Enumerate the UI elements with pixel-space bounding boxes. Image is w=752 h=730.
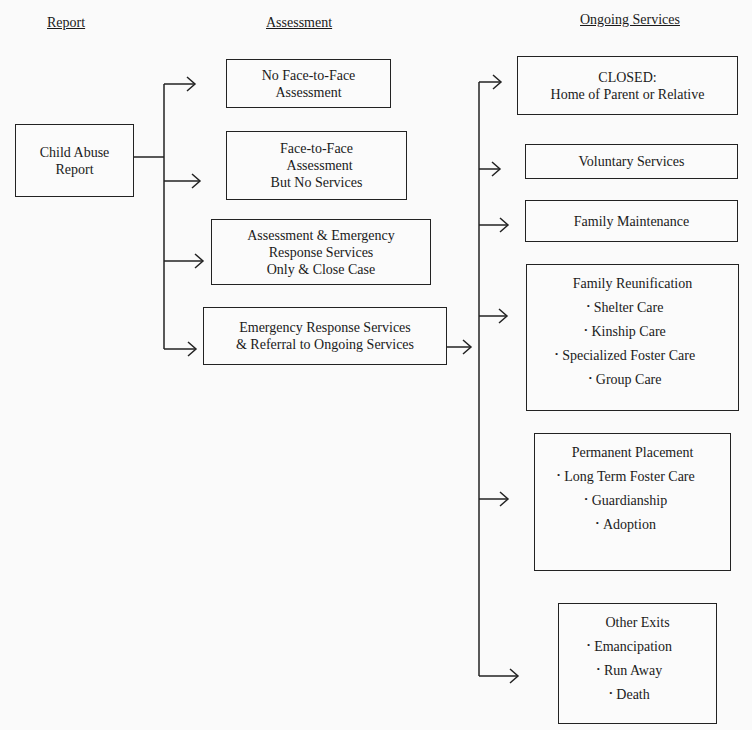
other-exits-list: •Emancipation •Run Away •Death [587, 638, 672, 710]
box-label: Child Abuse Report [40, 144, 110, 178]
header-ongoing-services: Ongoing Services [580, 12, 680, 28]
box-label: CLOSED: Home of Parent or Relative [551, 69, 705, 103]
emergency-referral-box: Emergency Response Services & Referral t… [203, 307, 447, 365]
list-item: •Emancipation [587, 638, 672, 655]
box-label: Face-to-Face Assessment But No Services [271, 140, 363, 191]
bullet-icon: • [585, 494, 588, 504]
box-label: Voluntary Services [579, 153, 685, 170]
no-face-to-face-box: No Face-to-Face Assessment [226, 59, 391, 108]
list-item: •Long Term Foster Care [557, 468, 695, 485]
bullet-icon: • [557, 470, 560, 480]
permanent-placement-list: •Long Term Foster Care •Guardianship •Ad… [557, 468, 695, 540]
family-reunification-box: Family Reunification •Shelter Care •Kins… [526, 264, 739, 411]
header-assessment: Assessment [266, 15, 332, 31]
bullet-icon: • [596, 518, 599, 528]
other-exits-box: Other Exits •Emancipation •Run Away •Dea… [558, 603, 717, 724]
box-label: Family Maintenance [574, 213, 689, 230]
list-item: •Specialized Foster Care [555, 347, 695, 364]
list-item: •Death [587, 686, 672, 703]
permanent-placement-box: Permanent Placement •Long Term Foster Ca… [534, 433, 731, 571]
closed-home-box: CLOSED: Home of Parent or Relative [517, 56, 738, 115]
bullet-icon: • [587, 301, 590, 311]
box-title: Family Reunification [573, 275, 692, 292]
box-title: Other Exits [605, 614, 669, 631]
box-title: Permanent Placement [572, 444, 694, 461]
face-to-face-no-services-box: Face-to-Face Assessment But No Services [226, 131, 407, 200]
list-item: •Group Care [555, 371, 695, 388]
bullet-icon: • [589, 373, 592, 383]
list-item: •Run Away [587, 662, 672, 679]
box-label: No Face-to-Face Assessment [262, 67, 356, 101]
bullet-icon: • [555, 349, 558, 359]
list-item: •Shelter Care [555, 299, 695, 316]
list-item: •Guardianship [557, 492, 695, 509]
family-maintenance-box: Family Maintenance [525, 200, 738, 242]
list-item: •Kinship Care [555, 323, 695, 340]
assessment-emergency-close-box: Assessment & Emergency Response Services… [211, 219, 431, 285]
bullet-icon: • [597, 664, 600, 674]
box-label: Emergency Response Services & Referral t… [236, 319, 414, 353]
reunification-list: •Shelter Care •Kinship Care •Specialized… [555, 299, 695, 395]
list-item: •Adoption [557, 516, 695, 533]
bullet-icon: • [609, 688, 612, 698]
voluntary-services-box: Voluntary Services [525, 144, 738, 179]
header-report: Report [47, 15, 85, 31]
bullet-icon: • [584, 325, 587, 335]
box-label: Assessment & Emergency Response Services… [247, 227, 395, 278]
child-abuse-report-box: Child Abuse Report [15, 124, 134, 197]
bullet-icon: • [587, 640, 590, 650]
